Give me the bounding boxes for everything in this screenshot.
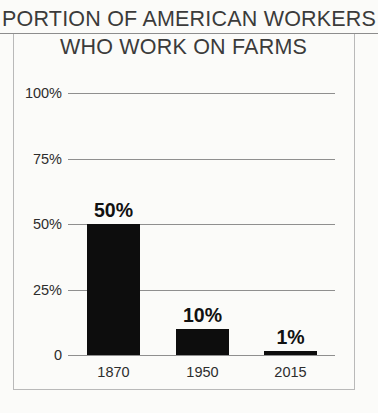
- gridline-75pct: [68, 159, 335, 160]
- bar-value-label-2015: 1%: [246, 327, 335, 347]
- y-axis-tick-label: 50%: [0, 217, 62, 231]
- y-axis-tick-label: 75%: [0, 152, 62, 166]
- gridline-0: [68, 355, 335, 356]
- gridline-100pct: [68, 93, 335, 94]
- x-axis-tick-label-1870: 1870: [69, 364, 158, 380]
- bar-1870: [87, 224, 140, 355]
- bar-value-label-1870: 50%: [69, 200, 158, 220]
- chart-title-line-1-text: PORTION OF AMERICAN WORKERS: [0, 6, 378, 34]
- x-axis-tick-label-1950: 1950: [158, 364, 247, 380]
- x-axis-tick-label-2015: 2015: [246, 364, 335, 380]
- y-axis-tick-label: 25%: [0, 283, 62, 297]
- chart-title-line-2: WHO WORK ON FARMS: [0, 34, 367, 60]
- bar-2015: [264, 351, 317, 355]
- y-axis-tick-label: 100%: [0, 86, 62, 100]
- chart-title-line-1: PORTION OF AMERICAN WORKERS: [0, 6, 367, 34]
- bar-1950: [176, 329, 229, 355]
- y-axis-tick-label: 0: [0, 348, 62, 362]
- bar-value-label-1950: 10%: [158, 305, 247, 325]
